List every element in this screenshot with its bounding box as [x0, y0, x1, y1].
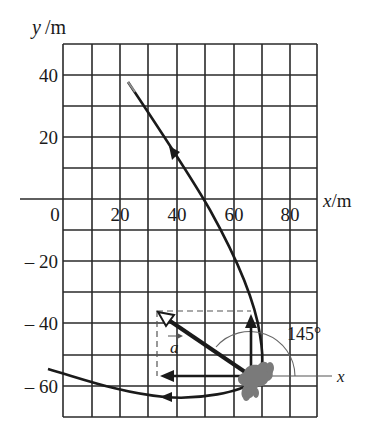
trajectory-arrow-bottom-icon: [160, 392, 172, 402]
rabbit-trajectory-diagram: y/m x/m 40 20 – 20 – 40 – 60 0 20 40 60 …: [0, 0, 378, 432]
x-tick-80: 80: [281, 204, 300, 225]
y-axis-label: y/m: [30, 16, 66, 39]
rabbit-icon: [238, 362, 274, 401]
y-tick-20: 20: [39, 127, 58, 148]
x-tick-40: 40: [168, 204, 187, 225]
grid: [63, 44, 317, 417]
y-tick-minus-60: – 60: [24, 376, 58, 397]
x-tick-0: 0: [50, 204, 60, 225]
x-component-arrow-icon: [160, 370, 174, 382]
vector-label: a: [170, 338, 179, 357]
x-axis-label: x/m: [322, 190, 352, 211]
local-x-label: x: [336, 367, 345, 386]
acceleration-vector: [170, 321, 251, 376]
trajectory-curve: [48, 82, 262, 398]
y-tick-minus-20: – 20: [24, 251, 58, 272]
y-tick-minus-40: – 40: [24, 313, 58, 334]
x-tick-20: 20: [111, 204, 130, 225]
x-tick-60: 60: [225, 204, 244, 225]
angle-label: 145°: [287, 324, 321, 344]
vector-label-arrow-icon: [178, 334, 183, 339]
y-tick-40: 40: [39, 65, 58, 86]
